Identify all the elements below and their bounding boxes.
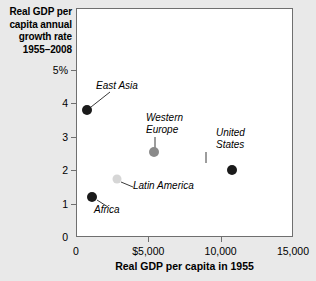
y-tick-mark-3 <box>71 137 76 138</box>
point-label-africa: Africa <box>94 204 120 216</box>
plot-area <box>76 8 293 237</box>
y-tick-label-1: 1 <box>28 198 68 210</box>
y-tick-label-4: 4 <box>28 97 68 109</box>
point-label-line: States <box>216 139 245 151</box>
point-label-western-europe: WesternEurope <box>146 112 183 135</box>
y-axis-title-line-2: growth rate <box>0 31 72 44</box>
x-tick-mark-10000 <box>221 237 222 242</box>
y-axis-title: Real GDP percapita annualgrowth rate1955… <box>0 6 72 56</box>
y-tick-mark-1 <box>71 204 76 205</box>
y-axis-title-line-0: Real GDP per <box>0 6 72 19</box>
point-label-line: Latin America <box>133 180 194 192</box>
point-label-line: United <box>216 127 245 139</box>
chart-figure: Real GDP percapita annualgrowth rate1955… <box>0 0 316 281</box>
y-axis-title-line-3: 1955–2008 <box>0 44 72 57</box>
point-label-east-asia: East Asia <box>96 80 138 92</box>
x-axis-title: Real GDP per capita in 1955 <box>76 260 293 272</box>
x-tick-label-10000: 10,000 <box>191 245 251 257</box>
y-tick-label-2: 2 <box>28 164 68 176</box>
point-label-united-states: UnitedStates <box>216 127 245 150</box>
x-tick-label-0: 0 <box>46 245 106 257</box>
point-label-line: Africa <box>94 204 120 216</box>
data-point-united-states[interactable] <box>227 165 237 175</box>
point-label-latin-america: Latin America <box>133 180 194 192</box>
y-tick-label-0: 0 <box>28 231 68 243</box>
point-label-line: Western <box>146 112 183 124</box>
point-label-line: East Asia <box>96 80 138 92</box>
data-point-western-europe[interactable] <box>149 147 159 157</box>
y-tick-label-5%: 5% <box>28 64 68 76</box>
x-tick-label-15000: 15,000 <box>263 245 316 257</box>
point-label-line: Europe <box>146 124 183 136</box>
y-tick-mark-5% <box>71 70 76 71</box>
y-tick-mark-2 <box>71 170 76 171</box>
x-tick-mark-5000 <box>148 237 149 242</box>
y-tick-mark-4 <box>71 103 76 104</box>
y-tick-label-3: 3 <box>28 131 68 143</box>
data-point-africa[interactable] <box>87 192 97 202</box>
x-tick-label-5000: $5,000 <box>118 245 178 257</box>
data-point-latin-america[interactable] <box>113 175 122 184</box>
y-axis-title-line-1: capita annual <box>0 19 72 32</box>
data-point-east-asia[interactable] <box>82 105 92 115</box>
